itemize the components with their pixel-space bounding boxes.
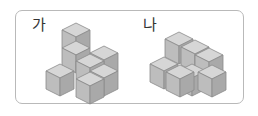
cube-figures (0, 0, 258, 116)
cube-stack-na (150, 32, 226, 97)
cube-stack-ga (46, 23, 118, 104)
